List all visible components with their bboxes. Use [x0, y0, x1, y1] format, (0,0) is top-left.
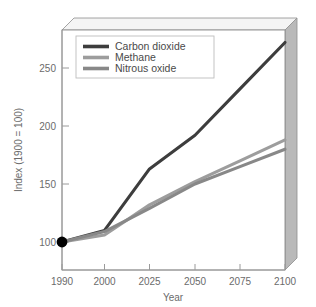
y-tick-label-250: 250	[39, 63, 56, 74]
y-tick-label-150: 150	[39, 179, 56, 190]
x-tick-label-1990: 1990	[51, 276, 74, 287]
x-tick-label-2000: 2000	[93, 276, 116, 287]
y-tick-label-100: 100	[39, 237, 56, 248]
origin-marker-dot	[57, 237, 68, 248]
frame-top-panel	[62, 18, 297, 30]
x-tick-label-2100: 2100	[274, 276, 297, 287]
y-axis-title: Index (1900 = 100)	[13, 108, 24, 192]
frame-right-panel	[285, 18, 297, 270]
x-tick-label-2050: 2050	[184, 276, 207, 287]
x-tick-label-2025: 2025	[138, 276, 161, 287]
legend[interactable]: Carbon dioxide Methane Nitrous oxide	[76, 36, 214, 78]
chart-figure: 250 200 150 100 1990 2000 2025 2050 2075…	[0, 0, 316, 307]
legend-label-nitrous-oxide: Nitrous oxide	[115, 62, 176, 74]
line-chart[interactable]: 250 200 150 100 1990 2000 2025 2050 2075…	[0, 0, 316, 307]
x-tick-label-2075: 2075	[229, 276, 252, 287]
x-axis-title: Year	[163, 292, 184, 303]
y-tick-label-200: 200	[39, 121, 56, 132]
